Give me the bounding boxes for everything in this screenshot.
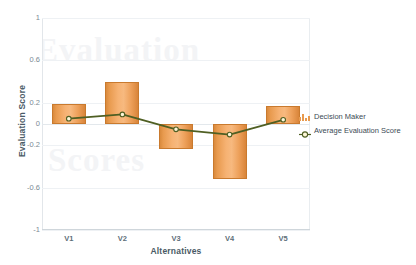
line-series-average-evaluation-score (42, 18, 310, 230)
chart-legend: Decision Maker Average Evaluation Score (299, 111, 401, 139)
y-axis-tick-label: 0 (14, 120, 40, 128)
x-axis-tick-label: V3 (156, 234, 196, 243)
y-axis-tick-labels: 10.60.20-0.2-0.6-1 (10, 0, 40, 265)
x-axis-tick-label: V1 (49, 234, 89, 243)
legend-item-decision-maker[interactable]: Decision Maker (299, 111, 401, 123)
y-axis-tick-label: 1 (14, 14, 40, 22)
line-marker (67, 116, 72, 121)
y-axis-tick-label: -0.2 (14, 141, 40, 149)
x-axis-tick-label: V5 (263, 234, 303, 243)
bar-chart-icon (299, 112, 311, 123)
y-axis-tick-label: 0.6 (14, 56, 40, 64)
legend-label-average-evaluation-score: Average Evaluation Score (314, 127, 401, 135)
line-marker (227, 132, 232, 137)
y-axis-tick-label: 0.2 (14, 99, 40, 107)
y-axis-tick-label: -0.6 (14, 184, 40, 192)
line-marker (281, 117, 286, 122)
legend-item-average-evaluation-score[interactable]: Average Evaluation Score (299, 125, 401, 137)
line-marker-icon (299, 126, 311, 137)
line-marker (174, 127, 179, 132)
x-axis-title: Alternatives (42, 246, 310, 256)
x-axis-tick-label: V2 (102, 234, 142, 243)
x-axis-tick-label: V4 (210, 234, 250, 243)
line-marker (120, 112, 125, 117)
y-axis-tick-label: -1 (14, 226, 40, 234)
chart-container: Evaluation Scores Evaluation Score 10.60… (0, 0, 416, 265)
gridline (42, 230, 310, 231)
plot-area (42, 18, 310, 230)
legend-label-decision-maker: Decision Maker (314, 113, 366, 121)
